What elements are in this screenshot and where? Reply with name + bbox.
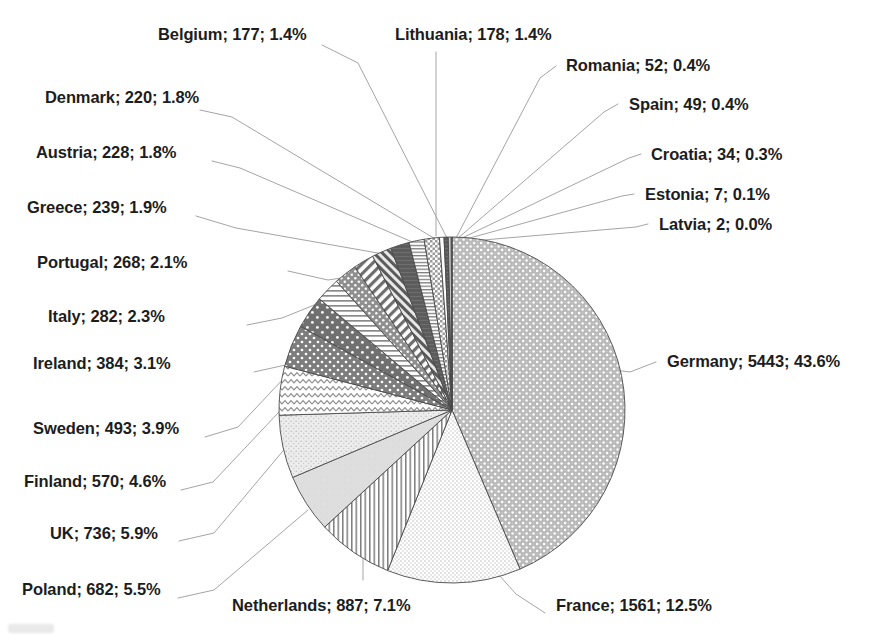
pie-chart-figure: Germany; 5443; 43.6%France; 1561; 12.5%N… (0, 0, 886, 642)
pie-label-portugal: Portugal; 268; 2.1% (37, 253, 187, 271)
pie-label-lithuania: Lithuania; 178; 1.4% (395, 25, 552, 43)
scan-artifact (8, 624, 54, 633)
pie-label-france: France; 1561; 12.5% (556, 596, 712, 614)
pie-label-austria: Austria; 228; 1.8% (36, 143, 176, 161)
pie-label-estonia: Estonia; 7; 0.1% (645, 185, 770, 203)
pie-label-latvia: Latvia; 2; 0.0% (659, 215, 772, 233)
pie-label-spain: Spain; 49; 0.4% (629, 95, 749, 113)
pie-label-finland: Finland; 570; 4.6% (24, 472, 166, 490)
pie-label-uk: UK; 736; 5.9% (50, 524, 158, 542)
pie-label-italy: Italy; 282; 2.3% (48, 307, 165, 325)
pie-slices-group: Germany; 5443; 43.6%France; 1561; 12.5%N… (279, 237, 625, 583)
pie-label-romania: Romania; 52; 0.4% (566, 56, 710, 74)
pie-label-greece: Greece; 239; 1.9% (27, 198, 167, 216)
pie-label-croatia: Croatia; 34; 0.3% (651, 145, 782, 163)
pie-label-denmark: Denmark; 220; 1.8% (45, 88, 199, 106)
pie-label-belgium: Belgium; 177; 1.4% (158, 25, 307, 43)
pie-label-poland: Poland; 682; 5.5% (22, 580, 161, 598)
pie-label-sweden: Sweden; 493; 3.9% (33, 419, 179, 437)
pie-label-germany: Germany; 5443; 43.6% (667, 352, 840, 370)
pie-label-netherlands: Netherlands; 887; 7.1% (232, 596, 410, 614)
pie-label-ireland: Ireland; 384; 3.1% (33, 354, 171, 372)
